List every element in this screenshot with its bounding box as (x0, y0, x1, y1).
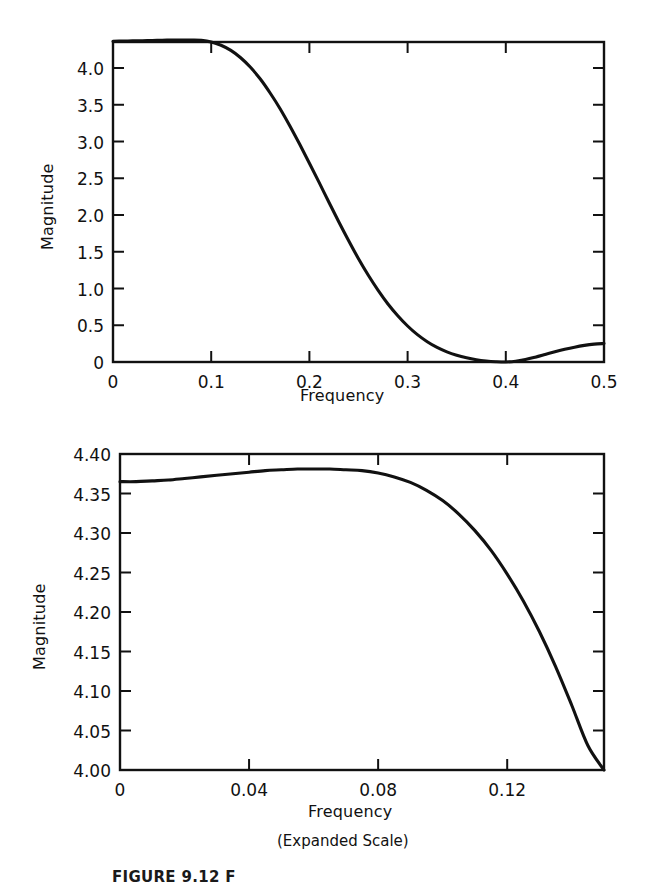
y-tick-label: 2.5 (77, 169, 104, 189)
data-curve (113, 40, 604, 362)
x-tick-label: 0.1 (198, 372, 225, 392)
x-axis-title-bottom: Frequency (308, 802, 392, 821)
x-axis-title-top: Frequency (300, 386, 384, 405)
y-tick-label: 1.5 (77, 243, 104, 263)
x-tick-label: 0.08 (359, 780, 397, 800)
y-tick-label: 3.0 (77, 133, 104, 153)
y-tick-label: 1.0 (77, 280, 104, 300)
x-axis-subtitle-expanded-scale: (Expanded Scale) (277, 832, 409, 850)
y-tick-label: 4.15 (73, 643, 111, 663)
x-tick-label: 0 (115, 780, 126, 800)
y-tick-label: 3.5 (77, 96, 104, 116)
y-tick-label: 4.0 (77, 59, 104, 79)
x-tick-label: 0 (108, 372, 119, 392)
x-tick-label: 0.4 (492, 372, 519, 392)
data-curve (120, 469, 604, 770)
y-tick-label: 4.25 (73, 564, 111, 584)
magnitude-response-full-plot: 00.51.01.52.02.53.03.54.000.10.20.30.40.… (0, 0, 645, 420)
y-tick-label: 0.5 (77, 316, 104, 336)
y-tick-label: 4.10 (73, 682, 111, 702)
plot-frame (113, 42, 604, 362)
y-tick-label: 4.30 (73, 524, 111, 544)
y-tick-label: 2.0 (77, 206, 104, 226)
chart-panel-bottom: 4.004.054.104.154.204.254.304.354.4000.0… (0, 420, 645, 881)
y-axis-title-top: Magnitude (38, 163, 57, 250)
x-tick-label: 0.5 (590, 372, 617, 392)
y-tick-label: 4.05 (73, 722, 111, 742)
y-tick-label: 4.20 (73, 603, 111, 623)
y-tick-label: 4.40 (73, 445, 111, 465)
y-tick-label: 4.00 (73, 761, 111, 781)
figure-caption: FIGURE 9.12 F (112, 868, 236, 886)
plot-frame (120, 454, 604, 770)
y-tick-label: 4.35 (73, 485, 111, 505)
y-tick-label: 0 (93, 353, 104, 373)
x-tick-label: 0.3 (394, 372, 421, 392)
x-tick-label: 0.04 (230, 780, 268, 800)
x-tick-label: 0.12 (488, 780, 526, 800)
chart-panel-top: 00.51.01.52.02.53.03.54.000.10.20.30.40.… (0, 0, 645, 420)
y-axis-title-bottom: Magnitude (30, 583, 49, 670)
